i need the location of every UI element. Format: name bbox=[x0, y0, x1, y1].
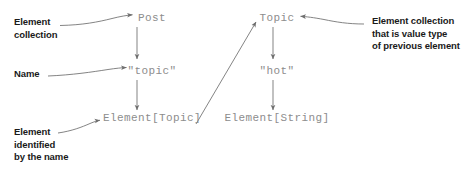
node-hot-name: "hot" bbox=[259, 65, 294, 78]
annotation-element-collection: Element collection bbox=[14, 16, 57, 41]
diagram-canvas: Element collection Name Element identifi… bbox=[0, 0, 471, 174]
arrow-element-topic-to-topic bbox=[196, 22, 256, 124]
curve-element-collection-to-post bbox=[60, 15, 133, 26]
node-post: Post bbox=[138, 12, 166, 25]
node-topic-name: "topic" bbox=[127, 65, 176, 78]
curve-name-to-topic-name bbox=[48, 68, 127, 77]
annotation-value-type-collection: Element collection that is value type of… bbox=[372, 15, 460, 53]
node-element-string: Element[String] bbox=[224, 112, 329, 125]
annotation-element-identified: Element identified by the name bbox=[14, 126, 68, 164]
node-topic: Topic bbox=[259, 12, 294, 25]
curve-value-type-to-topic bbox=[301, 16, 365, 24]
node-element-topic: Element[Topic] bbox=[103, 112, 201, 125]
annotation-name: Name bbox=[14, 68, 39, 81]
